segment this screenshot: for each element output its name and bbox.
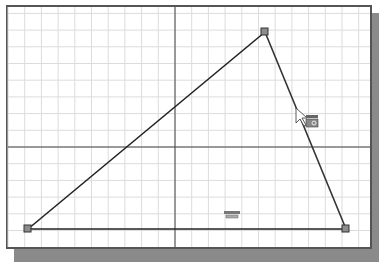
vertex-top[interactable] [261,28,268,35]
constraint-glyph-icon [306,115,318,127]
vertex-bottom-right[interactable] [342,225,349,232]
sketch-svg[interactable] [0,0,379,262]
horizontal-constraint-icon[interactable] [224,211,240,218]
vertex-bottom-left[interactable] [24,225,31,232]
cursor-icon [296,108,307,126]
